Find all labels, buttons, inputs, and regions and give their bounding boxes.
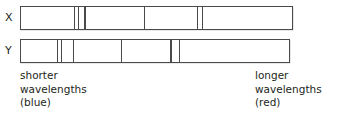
spectrum-y-label: Y <box>5 45 12 56</box>
spectrum-x-bar <box>20 6 293 30</box>
absorption-line <box>179 40 180 62</box>
absorption-line <box>197 7 198 29</box>
absorption-line <box>74 7 75 29</box>
right-caption: longer wavelengths (red) <box>255 69 322 110</box>
absorption-line <box>84 7 85 29</box>
absorption-line <box>170 40 171 62</box>
absorption-line <box>78 7 79 29</box>
spectra-diagram: X Y shorter wavelengths (blue) longer wa… <box>0 0 337 124</box>
spectrum-y-bar <box>20 39 290 63</box>
absorption-line <box>202 7 203 29</box>
spectrum-x-label: X <box>5 12 13 23</box>
absorption-line <box>121 40 122 62</box>
left-caption: shorter wavelengths (blue) <box>20 69 87 110</box>
absorption-line <box>144 7 145 29</box>
absorption-line <box>57 40 58 62</box>
absorption-line <box>73 40 74 62</box>
absorption-line <box>61 40 62 62</box>
